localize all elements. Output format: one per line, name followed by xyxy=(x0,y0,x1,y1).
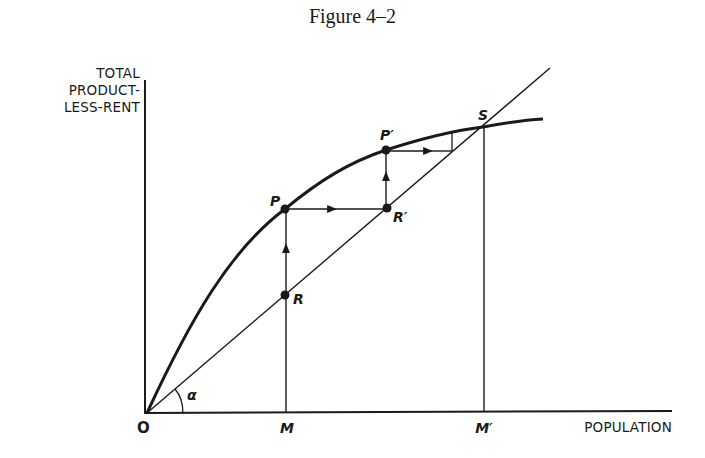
origin-label: O xyxy=(137,419,150,437)
point-rprime-marker xyxy=(383,204,392,213)
point-p-marker xyxy=(281,205,290,214)
x-axis-label: POPULATION xyxy=(584,419,672,435)
label-p: P xyxy=(270,193,281,209)
label-alpha: α xyxy=(187,387,197,403)
y-axis-label-line-1: TOTAL xyxy=(95,65,140,81)
x-axis xyxy=(145,411,672,413)
label-pprime: P′ xyxy=(380,127,394,143)
y-axis-label-line-2: PRODUCT- xyxy=(69,82,140,98)
tick-label-m: M xyxy=(280,420,294,436)
label-rprime: R′ xyxy=(393,209,408,225)
point-r-marker xyxy=(281,291,290,300)
subsistence-ray xyxy=(147,68,550,413)
diagram-canvas: TOTAL PRODUCT- LESS-RENT POPULATION O M … xyxy=(0,0,705,458)
tick-label-mprime: M′ xyxy=(475,420,493,436)
y-axis-label-line-3: LESS-RENT xyxy=(64,99,141,115)
label-r: R xyxy=(293,291,304,307)
label-s: S xyxy=(478,107,488,123)
point-pprime-marker xyxy=(382,146,391,155)
alpha-angle-arc xyxy=(175,389,183,414)
